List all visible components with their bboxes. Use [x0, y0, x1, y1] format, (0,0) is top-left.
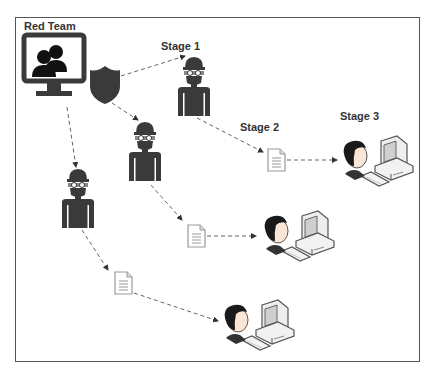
- attacker-2-icon: [129, 122, 161, 181]
- document-2-icon: [188, 225, 205, 247]
- victim-1-icon: [344, 136, 413, 186]
- red-team-label: Red Team: [24, 20, 76, 32]
- users-icon: [32, 45, 67, 77]
- shield-icon: [90, 66, 120, 104]
- document-3-icon: [115, 272, 132, 294]
- diagram-canvas: [0, 0, 431, 375]
- stage-2-label: Stage 2: [240, 121, 279, 133]
- victim-2-icon: [265, 211, 334, 261]
- attacker-1-icon: [178, 57, 210, 116]
- victim-3-icon: [225, 300, 294, 350]
- attacker-3-icon: [62, 169, 94, 228]
- document-1-icon: [268, 149, 285, 171]
- stage-1-label: Stage 1: [161, 40, 200, 52]
- stage-3-label: Stage 3: [340, 110, 379, 122]
